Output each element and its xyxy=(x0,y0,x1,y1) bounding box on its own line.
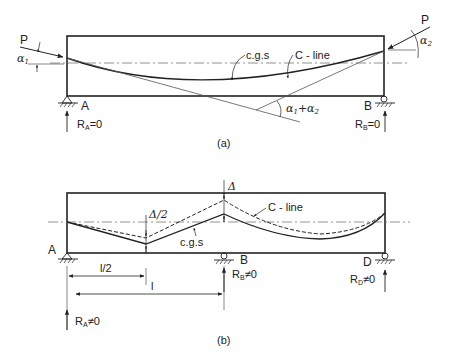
support-b-b xyxy=(214,253,234,264)
alpha1-label: α1 xyxy=(17,52,29,66)
support-d-label-b: D xyxy=(363,255,372,269)
cgs-label-a: c.g.s xyxy=(246,49,270,61)
delta-half-label: Δ/2 xyxy=(148,208,168,221)
support-b-a xyxy=(375,96,395,107)
c-line-label-a: C - line xyxy=(295,49,330,61)
figure-b: Δ Δ/2 c.g.s C - line A B xyxy=(48,180,410,346)
reaction-d-label-b: RD≠0 xyxy=(350,273,375,286)
beam-b xyxy=(67,193,385,253)
c-line-leader-a xyxy=(288,55,293,78)
support-a-label-b: A xyxy=(48,243,56,257)
angle-arc-sum xyxy=(277,101,281,117)
reaction-b-label-a: RB=0 xyxy=(355,118,380,131)
c-line-label-b: C - line xyxy=(268,201,303,213)
force-left-label: P xyxy=(20,33,28,47)
support-a-a xyxy=(58,96,78,107)
caption-a: (a) xyxy=(217,137,230,149)
prestressed-beam-diagram: P α1 P α2 c.g.s C - line α1+α2 A RA=0 xyxy=(0,0,451,363)
figure-a: P α1 P α2 c.g.s C - line α1+α2 A RA=0 xyxy=(17,13,432,149)
support-a-b xyxy=(58,253,78,263)
sum-angle-label: α1+α2 xyxy=(286,102,320,116)
tangent-left-a xyxy=(67,58,300,122)
cgs-label-b: c.g.s xyxy=(180,236,204,248)
beam-a xyxy=(67,36,384,96)
force-right-label: P xyxy=(421,13,429,27)
reaction-b-label-b: RB≠0 xyxy=(232,268,257,281)
cgs-profile-b xyxy=(67,213,385,244)
support-a-label-a: A xyxy=(81,99,89,113)
cable-profile-a xyxy=(67,51,384,80)
delta-label: Δ xyxy=(227,180,236,193)
alpha2-label: α2 xyxy=(420,34,432,48)
c-line-profile-b xyxy=(67,200,385,238)
reaction-a-label-a: RA=0 xyxy=(77,118,102,131)
force-arrow-left xyxy=(20,47,63,57)
support-b-label-b: B xyxy=(240,253,248,267)
caption-b: (b) xyxy=(217,334,230,346)
reaction-a-label-b: RA≠0 xyxy=(75,315,100,328)
support-d-b xyxy=(375,253,395,264)
half-span-label: l/2 xyxy=(100,262,112,274)
span-label: l xyxy=(151,280,153,292)
support-b-label-a: B xyxy=(364,99,372,113)
angle-arrow-left-top xyxy=(38,42,40,52)
cgs-leader-b xyxy=(194,228,196,236)
c-line-leader-b xyxy=(254,208,266,216)
cgs-leader-a xyxy=(232,55,245,80)
